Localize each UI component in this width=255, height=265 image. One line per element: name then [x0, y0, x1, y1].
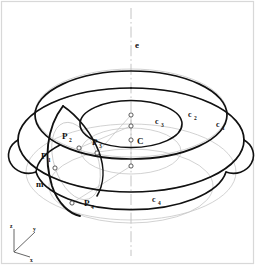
marker-axis-mid [129, 124, 133, 128]
label-c4-subscript: 4 [158, 200, 161, 206]
triad-label-y: y [33, 226, 36, 232]
label-p3-letter: P [92, 137, 98, 147]
marker-axis-top [129, 113, 133, 117]
label-c2-letter: c [188, 110, 192, 119]
label-c4-letter: c [152, 195, 156, 204]
label-p4-letter: P [84, 198, 90, 208]
marker-p4 [70, 201, 74, 205]
label-p1-subscript: 1 [48, 157, 51, 163]
marker-axis-low [129, 164, 133, 168]
label-c1-subscript: 1 [222, 125, 225, 131]
label-p1-letter: P [41, 151, 47, 161]
label-p2-letter: P [62, 131, 68, 141]
marker-center-C [129, 138, 133, 142]
triad-label-x: x [30, 257, 33, 263]
label-c1-letter: c [216, 120, 220, 129]
marker-p3 [95, 151, 99, 155]
label-p3-subscript: 3 [99, 143, 102, 149]
label-axis-e: e [135, 40, 139, 50]
marker-p1 [53, 166, 57, 170]
torus-diagram: e C c 1 c 2 c 3 c 4 P 1 P 2 P 3 P 4 m [0, 0, 255, 265]
label-meridian-m: m [36, 179, 44, 189]
label-c3-subscript: 3 [161, 122, 164, 128]
label-c2-subscript: 2 [194, 115, 197, 121]
label-p2-subscript: 2 [69, 137, 72, 143]
figure-frame [2, 2, 254, 264]
label-c3-letter: c [155, 117, 159, 126]
label-p4-subscript: 4 [91, 204, 94, 210]
label-center-C: C [137, 136, 144, 146]
marker-p2 [77, 146, 81, 150]
